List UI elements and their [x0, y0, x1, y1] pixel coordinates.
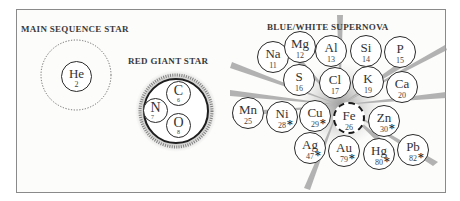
element-nitrogen: N 7 — [143, 98, 168, 123]
element-zinc: Zn30* — [368, 105, 400, 137]
element-number: 11 — [258, 62, 288, 70]
element-symbol: S — [284, 70, 314, 83]
element-copper: Cu29* — [299, 100, 331, 132]
element-manganese: Mn25 — [232, 97, 264, 129]
asterisk-marker-icon: * — [349, 153, 355, 164]
element-carbon: C 6 — [166, 81, 191, 106]
element-symbol: P — [385, 42, 415, 55]
element-symbol: He — [62, 67, 91, 80]
element-number: 25 — [233, 118, 263, 126]
element-symbol: C — [167, 84, 190, 98]
element-symbol: Cl — [320, 73, 350, 86]
element-number: 20 — [387, 92, 417, 100]
element-number: 17 — [320, 88, 350, 96]
element-symbol: Ca — [387, 77, 417, 90]
element-number: 8 — [167, 129, 190, 135]
stellar-nucleosynthesis-diagram: MAIN SEQUENCE STAR RED GIANT STAR BLUE/W… — [0, 0, 460, 201]
asterisk-marker-icon: * — [384, 156, 390, 167]
asterisk-marker-icon: * — [320, 118, 326, 129]
element-symbol: Si — [351, 41, 381, 54]
main-sequence-title: MAIN SEQUENCE STAR — [21, 24, 129, 34]
element-mercury: Hg80* — [363, 138, 395, 170]
element-aluminum: Al13 — [315, 35, 347, 67]
element-sulfur: S16 — [283, 64, 315, 96]
element-number: 19 — [353, 87, 383, 95]
element-number: 6 — [167, 97, 190, 103]
element-number: 26 — [335, 124, 363, 132]
element-symbol: K — [353, 72, 383, 85]
asterisk-marker-icon: * — [389, 123, 395, 134]
element-number: 14 — [351, 56, 381, 64]
element-symbol: Fe — [335, 109, 363, 122]
element-silver: Ag47* — [294, 132, 326, 164]
element-chlorine: Cl17 — [319, 67, 351, 99]
element-oxygen: O 8 — [166, 113, 191, 138]
element-number: 15 — [385, 57, 415, 65]
element-number: 16 — [284, 85, 314, 93]
element-symbol: Al — [316, 41, 346, 54]
element-silicon: Si14 — [350, 35, 382, 67]
asterisk-marker-icon: * — [315, 150, 321, 161]
element-helium: He 2 — [61, 61, 92, 92]
element-potassium: K19 — [352, 66, 384, 98]
element-symbol: O — [167, 116, 190, 130]
element-number: 12 — [285, 52, 315, 60]
element-gold: Au79* — [328, 135, 360, 167]
element-number: 7 — [138, 114, 167, 120]
element-number: 13 — [316, 56, 346, 64]
element-number: 2 — [62, 81, 91, 89]
element-nickel: Ni28* — [266, 101, 298, 133]
asterisk-marker-icon: * — [287, 119, 293, 130]
supernova-title: BLUE/WHITE SUPERNOVA — [267, 22, 389, 32]
element-phosphorus: P15 — [384, 36, 416, 68]
red-giant-title: RED GIANT STAR — [128, 56, 208, 66]
element-magnesium: Mg12 — [284, 31, 316, 63]
element-calcium: Ca20 — [386, 71, 418, 103]
element-lead: Pb82* — [397, 134, 429, 166]
element-iron: Fe26 — [333, 102, 365, 134]
element-symbol: Mn — [233, 103, 263, 116]
asterisk-marker-icon: * — [418, 152, 424, 163]
element-symbol: Mg — [285, 37, 315, 50]
element-symbol: N — [144, 101, 167, 115]
